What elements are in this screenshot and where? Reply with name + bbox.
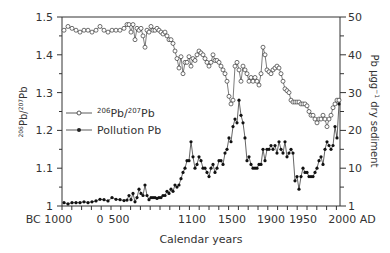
open-circle-marker-icon [77,111,81,115]
legend: 206Pb/207Pb Pollution Pb [66,107,161,137]
right-tick-label: 20 [348,124,362,137]
x-axis: BC 1000050011001500190019502000 AD [26,206,376,226]
x-tick-label: BC 1000 [26,213,73,226]
x-tick-label: 1500 [218,213,246,226]
x-tick-label: 1950 [289,213,317,226]
x-axis-label: Calendar years [159,233,242,246]
left-axis-label: 206Pb/207Pb [17,86,29,137]
chart: 11.11.21.31.41.5 11020304050 BC 10000500… [0,0,390,253]
right-tick-label: 40 [348,49,362,62]
legend-item-ratio: 206Pb/207Pb [66,107,155,120]
right-axis-label: Pb µgg−1 dry sediment [369,55,381,168]
right-tick-label: 30 [348,87,362,100]
x-tick-label: 1900 [257,213,285,226]
x-tick-label: 1100 [178,213,206,226]
left-tick-label: 1.5 [36,11,54,24]
right-tick-label: 50 [348,11,362,24]
filled-circle-marker-icon [77,128,81,132]
left-y-axis: 11.11.21.31.41.5 [36,11,63,213]
legend-label-pollution: Pollution Pb [97,124,161,137]
left-tick-label: 1.3 [36,87,54,100]
x-tick-label: 0 [97,213,104,226]
left-tick-label: 1 [46,200,53,213]
left-tick-label: 1.4 [36,49,54,62]
right-tick-label: 1 [348,200,355,213]
legend-label-ratio: 206Pb/207Pb [97,107,155,120]
legend-item-pollution: Pollution Pb [66,124,161,137]
right-tick-label: 10 [348,162,362,175]
left-tick-label: 1.2 [36,124,54,137]
x-tick-label: 500 [109,213,130,226]
right-y-axis: 11020304050 [340,11,362,213]
x-tick-label: 2000 AD [328,213,376,226]
left-tick-label: 1.1 [36,162,54,175]
